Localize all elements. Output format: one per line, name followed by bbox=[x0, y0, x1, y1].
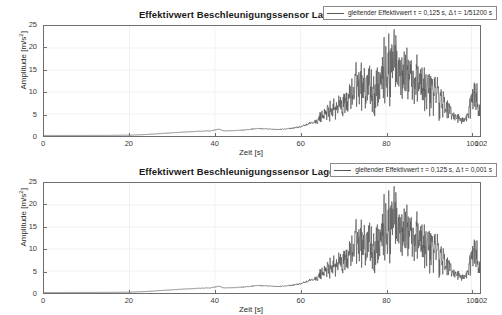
chart-panel-bottom: Effektivwert Beschleunigungssensor Lager… bbox=[0, 157, 502, 314]
legend-line-swatch-icon bbox=[327, 13, 344, 14]
y-tick-mark bbox=[43, 272, 47, 273]
x-tick-mark bbox=[215, 133, 216, 137]
x-axis-label: Zeit [s] bbox=[0, 148, 502, 157]
figure-root: Effektivwert Beschleunigungssensor Lager… bbox=[0, 0, 502, 315]
legend-bottom: gleitender Effektivwert τ = 0,125 s, Δ t… bbox=[330, 163, 497, 177]
y-tick-labels-top: 0510152025 bbox=[16, 25, 40, 137]
x-tick-label: 80 bbox=[372, 139, 402, 148]
y-tick-label: 15 bbox=[13, 66, 37, 74]
x-axis-label-2: Zeit [s] bbox=[0, 305, 502, 314]
y-tick-label: 25 bbox=[13, 21, 37, 29]
x-tick-mark bbox=[472, 133, 473, 137]
x-tick-mark bbox=[472, 290, 473, 294]
x-tick-label: 60 bbox=[286, 139, 316, 148]
legend-label: gleitender Effektivwert τ = 0,125 s, Δ t… bbox=[348, 9, 492, 17]
y-tick-mark bbox=[43, 227, 47, 228]
x-tick-label: 0 bbox=[28, 139, 58, 148]
y-tick-label: 10 bbox=[13, 88, 37, 96]
x-tick-label: 0 bbox=[28, 296, 58, 305]
x-tick-mark bbox=[215, 290, 216, 294]
plot-area-bottom bbox=[43, 182, 481, 294]
y-tick-labels-bottom: 0510152025 bbox=[16, 182, 40, 294]
x-tick-label: 102 bbox=[466, 296, 496, 305]
y-tick-mark bbox=[43, 204, 47, 205]
legend-line-swatch-icon bbox=[334, 170, 351, 171]
y-tick-mark bbox=[43, 47, 47, 48]
y-tick-label: 15 bbox=[13, 223, 37, 231]
legend-top: gleitender Effektivwert τ = 0,125 s, Δ t… bbox=[323, 6, 497, 20]
y-tick-mark bbox=[43, 92, 47, 93]
y-tick-mark bbox=[43, 115, 47, 116]
y-tick-label: 10 bbox=[13, 245, 37, 253]
x-tick-label: 40 bbox=[200, 139, 230, 148]
x-tick-mark bbox=[387, 290, 388, 294]
x-tick-label: 60 bbox=[286, 296, 316, 305]
data-line-bottom bbox=[44, 186, 480, 292]
plot-area-top bbox=[43, 25, 481, 137]
x-tick-label: 102 bbox=[466, 139, 496, 148]
x-tick-label: 40 bbox=[200, 296, 230, 305]
x-tick-label: 20 bbox=[114, 139, 144, 148]
x-tick-mark bbox=[129, 290, 130, 294]
y-tick-mark bbox=[43, 249, 47, 250]
x-tick-mark bbox=[129, 133, 130, 137]
y-tick-label: 25 bbox=[13, 178, 37, 186]
x-tick-mark bbox=[301, 133, 302, 137]
plot-svg-bottom bbox=[44, 183, 480, 293]
x-tick-label: 80 bbox=[372, 296, 402, 305]
chart-panel-top: Effektivwert Beschleunigungssensor Lager… bbox=[0, 0, 502, 157]
x-tick-label: 20 bbox=[114, 296, 144, 305]
plot-svg-top bbox=[44, 26, 480, 136]
x-tick-mark bbox=[301, 290, 302, 294]
y-tick-label: 5 bbox=[13, 111, 37, 119]
y-tick-label: 5 bbox=[13, 268, 37, 276]
x-tick-mark bbox=[387, 133, 388, 137]
y-tick-label: 20 bbox=[13, 200, 37, 208]
data-line-top bbox=[44, 29, 480, 135]
y-tick-mark bbox=[43, 70, 47, 71]
y-tick-label: 20 bbox=[13, 43, 37, 51]
legend-label: gleitender Effektivwert τ = 0,125 s, Δ t… bbox=[355, 166, 492, 174]
